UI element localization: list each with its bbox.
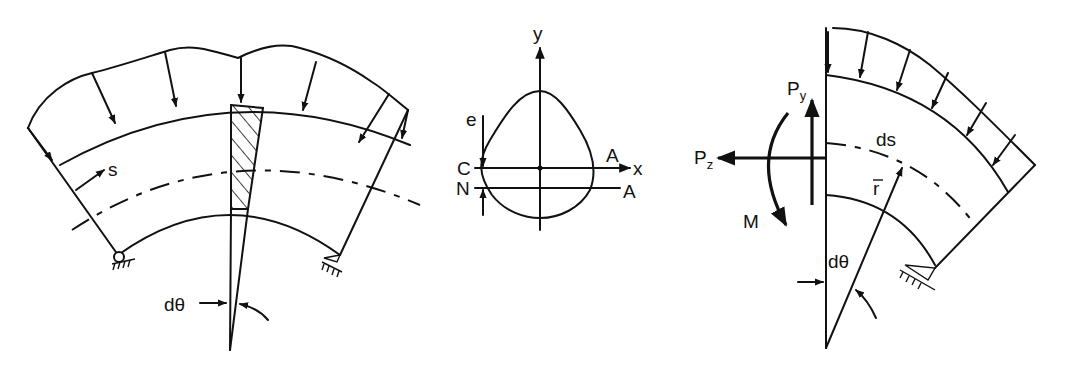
beam-center-arc-right [826, 143, 975, 225]
label-A-top: A [606, 145, 619, 166]
label-y: y [533, 23, 543, 44]
label-M: M [743, 211, 759, 232]
label-N: N [456, 178, 470, 199]
label-x: x [633, 158, 643, 179]
radial-line-left [230, 209, 231, 350]
distributed-load-arrows-right [828, 32, 1015, 165]
beam-inner-arc [118, 215, 340, 255]
label-Py: Py [787, 78, 807, 103]
radial-line-right [230, 209, 248, 350]
dtheta-arrow-right [240, 304, 268, 320]
load-envelope-right [833, 28, 1035, 165]
right-support-fb [900, 265, 935, 290]
label-s: s [108, 159, 118, 180]
label-Pz: Pz [694, 147, 713, 172]
label-e: e [466, 109, 477, 130]
s-arrow [76, 170, 104, 190]
right-ground-hatch [322, 255, 342, 277]
beam-outer-arc-right [826, 75, 1008, 192]
free-body-panel: r ds dθ Py Pz M [694, 28, 1035, 348]
load-envelope [28, 46, 408, 128]
hatched-beam-element [231, 105, 263, 209]
moment-M-arrow [768, 113, 788, 225]
label-C: C [457, 158, 471, 179]
cross-section-shape [481, 91, 593, 218]
left-pin-support [114, 252, 124, 262]
label-dtheta-2: dθ [828, 251, 849, 272]
label-dtheta-1: dθ [164, 294, 185, 315]
cross-section-panel: y x A A C N e [456, 23, 643, 230]
diagram-canvas: s dθ y x A A C N e [0, 0, 1069, 370]
right-end-line-fb [935, 165, 1035, 268]
label-A-bottom: A [623, 181, 636, 202]
label-ds: ds [876, 129, 896, 150]
curved-beam-panel: s dθ [28, 46, 420, 350]
label-r: r [873, 178, 880, 199]
dtheta-arrow-right-fb [856, 290, 876, 318]
centroid-point [538, 166, 543, 171]
